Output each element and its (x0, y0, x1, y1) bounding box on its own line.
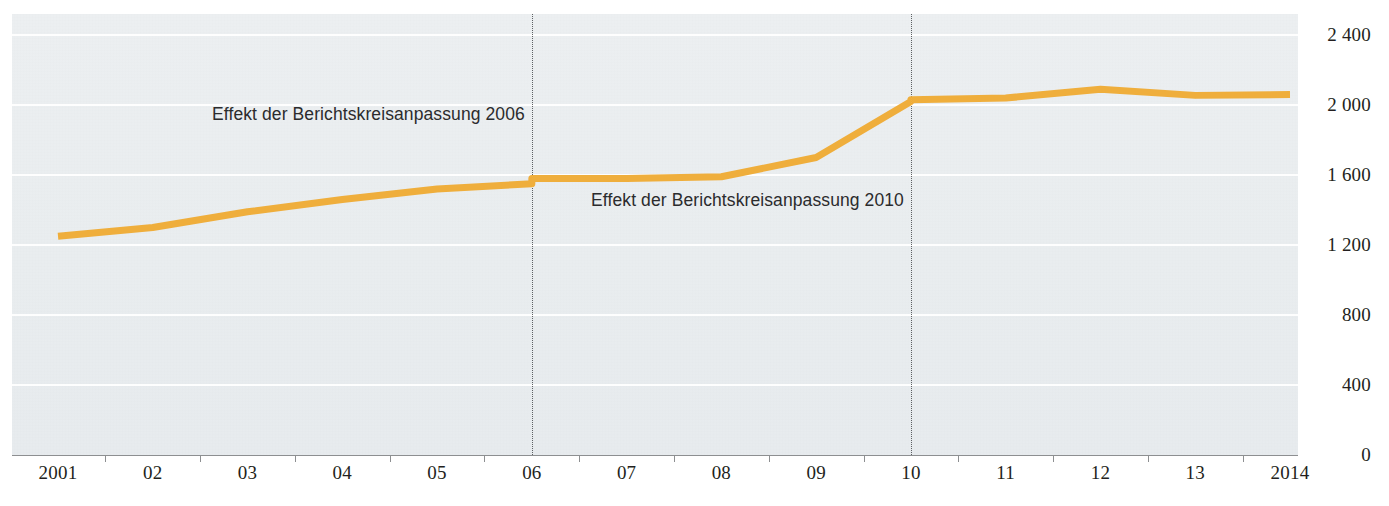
x-axis-tick-label: 2014 (1271, 462, 1310, 484)
gridline (12, 104, 1298, 106)
x-axis-tick-label: 12 (1091, 462, 1110, 484)
gridline (12, 244, 1298, 246)
x-axis-tick-label: 13 (1186, 462, 1205, 484)
x-axis-tick-label: 09 (806, 462, 825, 484)
x-axis-tick-mark (769, 455, 770, 462)
x-axis-tick-label: 04 (333, 462, 352, 484)
annotation-label: Effekt der Berichtskreisanpassung 2010 (591, 189, 911, 210)
gridline (12, 174, 1298, 176)
y-axis-tick-label: 2 400 (1327, 24, 1371, 46)
x-axis-tick-label: 11 (996, 462, 1015, 484)
x-axis-tick-mark (1053, 455, 1054, 462)
annotation-label: Effekt der Berichtskreisanpassung 2006 (212, 103, 532, 124)
chart-figure: 04008001 2001 6002 0002 400 200102030405… (0, 0, 1389, 506)
x-axis-tick-mark (864, 455, 865, 462)
x-axis-tick-label: 10 (901, 462, 920, 484)
x-axis-tick-label: 02 (143, 462, 162, 484)
plot-area (12, 14, 1298, 455)
y-axis-tick-label: 800 (1342, 304, 1371, 326)
x-axis-line (12, 455, 1298, 456)
x-axis-tick-mark (674, 455, 675, 462)
paper-texture-overlay (12, 14, 1298, 455)
event-line-2010 (911, 14, 912, 455)
y-axis-tick-label: 1 200 (1327, 234, 1371, 256)
x-axis-tick-label: 08 (712, 462, 731, 484)
x-axis-tick-label: 05 (427, 462, 446, 484)
x-axis-tick-mark (579, 455, 580, 462)
event-line-2006 (532, 14, 533, 455)
x-axis-tick-mark (390, 455, 391, 462)
x-axis-tick-mark (1148, 455, 1149, 462)
gridline (12, 314, 1298, 316)
x-axis-tick-mark (484, 455, 485, 462)
x-axis-tick-mark (958, 455, 959, 462)
x-axis-tick-mark (1243, 455, 1244, 462)
y-axis-tick-label: 2 000 (1327, 94, 1371, 116)
gridline (12, 384, 1298, 386)
x-axis-tick-label: 03 (238, 462, 257, 484)
x-axis-tick-label: 07 (617, 462, 636, 484)
x-axis-tick-mark (200, 455, 201, 462)
x-axis-tick-mark (295, 455, 296, 462)
gridline (12, 34, 1298, 36)
y-axis-tick-label: 0 (1361, 444, 1371, 466)
y-axis-tick-label: 1 600 (1327, 164, 1371, 186)
x-axis-tick-label: 2001 (39, 462, 78, 484)
y-axis-tick-label: 400 (1342, 374, 1371, 396)
x-axis-tick-label: 06 (522, 462, 541, 484)
x-axis-tick-mark (105, 455, 106, 462)
